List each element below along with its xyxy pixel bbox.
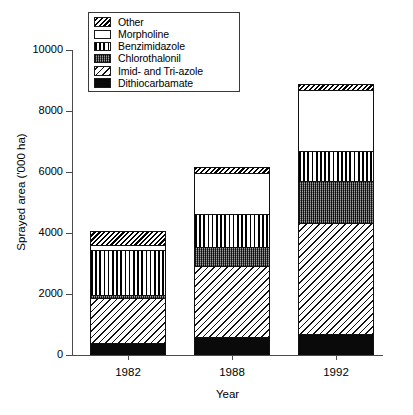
y-tick-label: 4000 [0, 227, 63, 238]
bar-segment-1992-imid-and-tri-azole [298, 223, 374, 333]
y-tick-label: 8000 [0, 105, 63, 116]
x-tick-mark [232, 355, 233, 360]
bar-1992 [298, 84, 374, 355]
x-axis-label: Year [72, 388, 383, 400]
bar-segment-1988-imid-and-tri-azole [194, 266, 270, 338]
bar-segment-1992-chlorothalonil [298, 181, 374, 223]
bar-segment-1982-dithiocarbamate [90, 343, 166, 355]
legend-swatch-other-icon [94, 17, 111, 27]
legend-swatch-dithiocarbamate-icon [94, 78, 111, 88]
legend-label-morpholine: Morpholine [118, 29, 169, 40]
y-tick-label-text: 10000 [3, 44, 63, 55]
legend-item-chlorothalonil: Chlorothalonil [94, 53, 235, 65]
x-tick-mark [336, 355, 337, 360]
chart-figure: Other Morpholine Benzimidazole Chlorotha… [0, 0, 413, 415]
y-axis-line [72, 50, 73, 356]
legend-label-dithiocarbamate: Dithiocarbamate [118, 78, 193, 89]
legend-item-other: Other [94, 16, 235, 28]
x-tick-label-1982: 1982 [83, 366, 173, 378]
y-tick-label-text: 6000 [3, 166, 63, 177]
legend-item-benzimidazole: Benzimidazole [94, 40, 235, 52]
y-tick-label-text: 4000 [3, 227, 63, 238]
legend-label-other: Other [118, 17, 144, 28]
legend-label-chlorothalonil: Chlorothalonil [118, 53, 181, 64]
y-tick-label: 2000 [0, 288, 63, 299]
legend-item-imid-and-tri-azole: Imid- and Tri-azole [94, 65, 235, 77]
bar-1982 [90, 231, 166, 355]
bar-segment-1992-morpholine [298, 90, 374, 151]
y-tick-label: 0 [0, 349, 63, 360]
legend-swatch-imid-and-tri-azole-icon [94, 66, 111, 76]
y-tick-label-text: 8000 [3, 105, 63, 116]
y-tick-mark [66, 50, 72, 51]
bar-segment-1992-benzimidazole [298, 151, 374, 182]
legend-swatch-benzimidazole-icon [94, 42, 111, 52]
y-tick-label: 10000 [0, 44, 63, 55]
bar-segment-1992-dithiocarbamate [298, 334, 374, 355]
chart-legend: Other Morpholine Benzimidazole Chlorotha… [88, 12, 240, 92]
y-tick-label-text: 2000 [3, 288, 63, 299]
x-tick-label-1992: 1992 [291, 366, 381, 378]
y-tick-mark [66, 233, 72, 234]
y-tick-mark [66, 111, 72, 112]
legend-item-dithiocarbamate: Dithiocarbamate [94, 77, 235, 89]
y-tick-mark [66, 172, 72, 173]
legend-swatch-morpholine-icon [94, 30, 111, 40]
legend-swatch-chlorothalonil-icon [94, 54, 111, 64]
bar-1988 [194, 167, 270, 355]
bar-segment-1988-benzimidazole [194, 214, 270, 247]
bar-segment-1988-chlorothalonil [194, 247, 270, 266]
legend-label-imid-and-tri-azole: Imid- and Tri-azole [118, 66, 203, 77]
bar-segment-1988-morpholine [194, 173, 270, 214]
bar-segment-1988-dithiocarbamate [194, 337, 270, 355]
legend-item-morpholine: Morpholine [94, 28, 235, 40]
y-tick-mark [66, 355, 72, 356]
bar-segment-1982-imid-and-tri-azole [90, 298, 166, 343]
y-tick-mark [66, 294, 72, 295]
y-axis-label: Sprayed area ('000 ha) [15, 97, 27, 287]
y-tick-label: 6000 [0, 166, 63, 177]
bar-segment-1982-other [90, 231, 166, 244]
legend-label-benzimidazole: Benzimidazole [118, 41, 185, 52]
x-tick-label-1988: 1988 [187, 366, 277, 378]
y-tick-label-text: 0 [3, 349, 63, 360]
x-tick-mark [128, 355, 129, 360]
bar-segment-1982-benzimidazole [90, 250, 166, 295]
